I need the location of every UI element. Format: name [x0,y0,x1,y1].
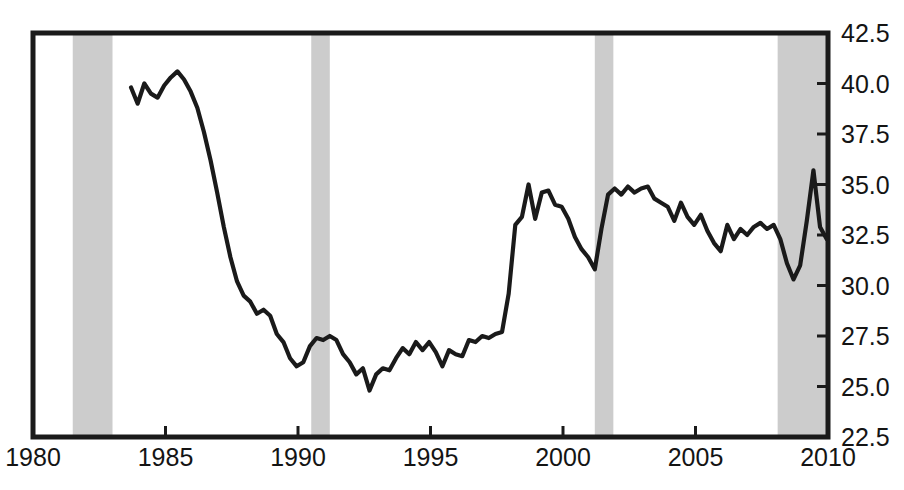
x-axis-label: 2010 [800,443,856,471]
y-axis-label: 42.5 [841,19,890,47]
x-axis-label: 2000 [535,443,591,471]
y-axis-tick-labels: 22.525.027.530.032.535.037.540.042.5 [841,19,890,451]
chart-figure: 22.525.027.530.032.535.037.540.042.5 198… [0,0,904,490]
y-axis-label: 25.0 [841,373,890,401]
y-axis-label: 40.0 [841,70,890,98]
y-axis-label: 37.5 [841,120,890,148]
y-axis-label: 30.0 [841,272,890,300]
recession-bands [73,33,828,437]
line-chart: 22.525.027.530.032.535.037.540.042.5 198… [0,0,904,490]
y-axis-label: 32.5 [841,221,890,249]
y-axis-label: 27.5 [841,322,890,350]
series-lines [131,71,827,390]
recession-2001 [595,33,614,437]
x-axis-label: 2005 [668,443,724,471]
x-axis-label: 1985 [138,443,194,471]
series-line-series-1 [131,71,827,390]
axis-ticks [166,84,829,438]
y-axis-label: 35.0 [841,171,890,199]
x-axis-label: 1995 [403,443,459,471]
x-axis-tick-labels: 1980198519901995200020052010 [5,443,856,471]
x-axis-label: 1980 [5,443,61,471]
recession-1990-1991 [311,33,330,437]
recession-1981-1982 [73,33,113,437]
x-axis-label: 1990 [270,443,326,471]
